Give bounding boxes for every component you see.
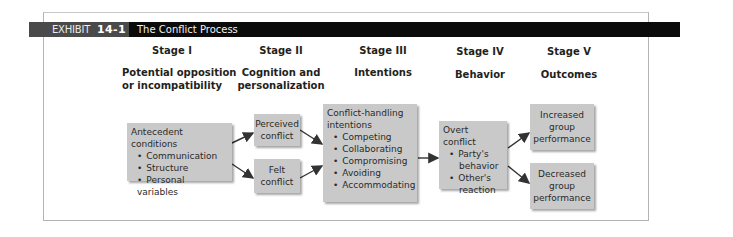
antecedent-item: Structure [131,162,228,174]
decreased-performance-box: Decreased group performance [530,163,594,209]
arrow-felt-to-intentions [300,166,322,178]
overt-item: Party'sbehavior [443,148,503,172]
overt-item-text: behavior [449,161,499,171]
perceived-conflict-box: Perceived conflict [254,114,300,146]
intentions-title-line: intentions [327,119,413,131]
antecedent-conditions-box: Antecedent conditions Communication Stru… [127,123,232,181]
felt-conflict-box: Felt conflict [254,159,300,193]
intentions-item: Compromising [327,155,413,167]
intentions-title-line: Conflict-handling [327,107,413,119]
increased-line: performance [533,133,591,145]
antecedent-item: Personal variables [131,174,228,198]
intentions-item: Accommodating [327,179,413,191]
overt-title: Overt conflict [443,124,503,148]
decreased-line: group [549,180,575,192]
overt-item-text: Party's [458,149,488,159]
antecedent-item: Communication [131,150,228,162]
felt-line: conflict [261,176,294,188]
overt-item-text: reaction [449,185,496,195]
decreased-line: Decreased [538,168,586,180]
arrow-antecedent-to-perceived [232,133,253,143]
intentions-item: Avoiding [327,167,413,179]
arrow-antecedent-to-felt [232,164,253,178]
overt-conflict-box: Overt conflict Party'sbehavior Other'sre… [439,121,507,189]
felt-line: Felt [269,164,285,176]
perceived-line: conflict [261,130,294,142]
arrow-overt-to-increased [508,133,529,148]
perceived-line: Perceived [255,118,299,130]
overt-item: Other'sreaction [443,172,503,196]
arrow-perceived-to-intentions [300,130,322,144]
intentions-item: Competing [327,131,413,143]
decreased-line: performance [533,192,591,204]
arrow-overt-to-decreased [508,166,529,183]
intentions-item: Collaborating [327,143,413,155]
conflict-handling-intentions-box: Conflict-handling intentions Competing C… [323,104,417,202]
increased-line: group [549,121,575,133]
antecedent-title: Antecedent conditions [131,126,228,150]
increased-performance-box: Increased group performance [530,104,594,150]
increased-line: Increased [540,109,584,121]
overt-item-text: Other's [458,173,491,183]
